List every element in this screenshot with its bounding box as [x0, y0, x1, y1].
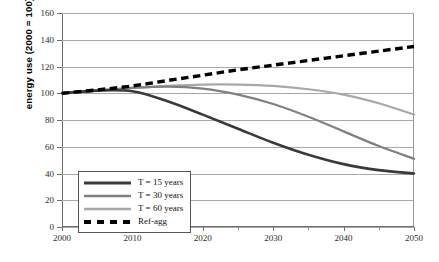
x-tick [344, 227, 345, 231]
chart-legend: T = 15 years T = 30 years T = 60 years [78, 171, 191, 233]
y-tick-label: 160 [41, 8, 55, 18]
x-tick-minor [308, 227, 309, 230]
x-tick-label: 2040 [335, 233, 353, 243]
x-tick-label: 2050 [405, 233, 423, 243]
y-tick-label: 40 [45, 169, 54, 179]
series-line [62, 87, 414, 159]
series-line [62, 46, 414, 93]
y-tick-label: 20 [45, 195, 54, 205]
x-tick [414, 227, 415, 231]
x-tick [203, 227, 204, 231]
x-tick-label: 2000 [53, 233, 71, 243]
y-tick-label: 100 [41, 88, 55, 98]
y-tick-label: 120 [41, 62, 55, 72]
x-tick [273, 227, 274, 231]
legend-label-t60: T = 60 years [138, 202, 183, 215]
y-tick-label: 60 [45, 142, 54, 152]
legend-swatch-t15 [84, 176, 131, 189]
x-tick [62, 227, 63, 231]
legend-swatch-t60 [84, 202, 131, 215]
y-tick-label: 80 [45, 115, 54, 125]
energy-use-line-chart: energy use (2000 = 100) 0204060801001201… [0, 0, 439, 262]
x-tick-minor [238, 227, 239, 230]
y-axis-title: energy use (2000 = 100) [23, 0, 34, 134]
x-tick-minor [379, 227, 380, 230]
x-tick-label: 2010 [123, 233, 141, 243]
legend-item: T = 60 years [84, 202, 183, 215]
legend-label-t15: T = 15 years [138, 176, 183, 189]
x-tick-label: 2030 [264, 233, 282, 243]
y-tick-label: 0 [50, 222, 55, 232]
legend-swatch-t30 [84, 189, 131, 202]
legend-item: T = 15 years [84, 176, 183, 189]
legend-item: T = 30 years [84, 189, 183, 202]
legend-label-t30: T = 30 years [138, 189, 183, 202]
legend-label-ref-agg: Ref-agg [138, 215, 167, 228]
legend-item: Ref-agg [84, 215, 183, 228]
y-tick-label: 140 [41, 35, 55, 45]
series-line [62, 90, 414, 173]
legend-swatch-ref-agg [84, 215, 131, 228]
x-tick-label: 2020 [194, 233, 212, 243]
